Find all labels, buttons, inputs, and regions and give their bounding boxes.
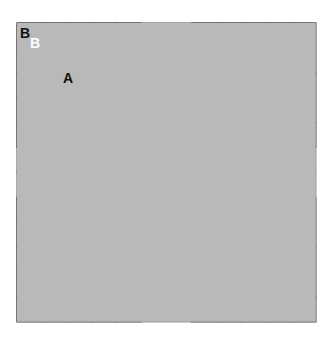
block-background [17, 23, 316, 322]
label-b-inner: B [30, 35, 40, 51]
quilt-diagram: B B A [0, 0, 334, 350]
label-a: A [63, 70, 73, 86]
setting-triangles [17, 23, 316, 322]
label-b-outer: B [20, 25, 30, 41]
